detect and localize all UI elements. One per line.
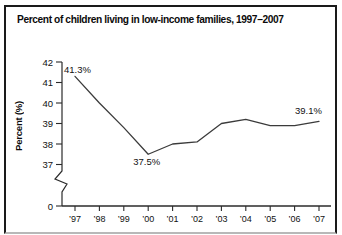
trend-line <box>75 76 319 154</box>
y-axis-line <box>55 62 67 206</box>
x-tick-label: ’07 <box>313 214 325 224</box>
y-tick-label: 42 <box>42 57 53 68</box>
x-tick-label: ’04 <box>240 214 252 224</box>
x-tick-label: ’03 <box>215 214 227 224</box>
data-label: 37.5% <box>133 156 160 167</box>
x-tick-label: ’01 <box>167 214 179 224</box>
x-tick-label: ’00 <box>142 214 154 224</box>
x-tick-label: ’98 <box>93 214 105 224</box>
data-label: 39.1% <box>295 105 322 116</box>
y-tick-label: 39 <box>42 118 53 129</box>
y-tick-label: 38 <box>42 139 53 150</box>
y-origin-label: 0 <box>48 201 53 212</box>
x-tick-label: ’05 <box>264 214 276 224</box>
chart-canvas: 4241403938370’97’98’99’00’01’02’03’04’05… <box>0 0 342 235</box>
data-label: 41.3% <box>64 64 91 75</box>
y-tick-label: 37 <box>42 159 53 170</box>
y-tick-label: 41 <box>42 77 53 88</box>
x-tick-label: ’02 <box>191 214 203 224</box>
figure: Percent of children living in low-income… <box>0 0 342 235</box>
x-tick-label: ’99 <box>118 214 130 224</box>
y-tick-label: 40 <box>42 98 53 109</box>
x-tick-label: ’06 <box>289 214 301 224</box>
x-tick-label: ’97 <box>69 214 81 224</box>
